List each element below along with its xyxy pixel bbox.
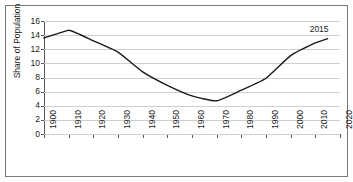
x-tick-mark-2010 — [315, 135, 316, 138]
y-tick-label-10: 10 — [26, 59, 40, 68]
y-tick-label-14: 14 — [26, 31, 40, 40]
x-tick-mark-1930 — [118, 135, 119, 138]
x-tick-mark-1960 — [192, 135, 193, 138]
x-tick-mark-1990 — [266, 135, 267, 138]
y-tick-mark-16 — [41, 21, 44, 22]
annotation-2015: 2015 — [310, 24, 329, 34]
y-tick-label-8: 8 — [26, 73, 40, 82]
cropped-title-text — [6, 0, 347, 3]
x-tick-mark-1950 — [167, 135, 168, 138]
y-tick-mark-2 — [41, 120, 44, 121]
x-tick-label-2000: 2000 — [295, 110, 305, 140]
x-tick-mark-2000 — [291, 135, 292, 138]
x-tick-label-1980: 1980 — [245, 110, 255, 140]
x-tick-label-1920: 1920 — [97, 110, 107, 140]
y-tick-label-16: 16 — [26, 17, 40, 26]
y-tick-label-12: 12 — [26, 45, 40, 54]
y-tick-label-4: 4 — [26, 101, 40, 110]
y-tick-label-0: 0 — [26, 130, 40, 139]
x-tick-label-1930: 1930 — [122, 110, 132, 140]
x-tick-mark-1940 — [143, 135, 144, 138]
y-axis-title: Share of Population — [12, 0, 22, 96]
x-tick-mark-1920 — [93, 135, 94, 138]
x-tick-mark-1970 — [217, 135, 218, 138]
x-tick-mark-2020 — [340, 135, 341, 138]
x-tick-label-1950: 1950 — [171, 110, 181, 140]
x-tick-label-1940: 1940 — [147, 110, 157, 140]
x-tick-mark-1980 — [241, 135, 242, 138]
x-tick-label-2010: 2010 — [319, 110, 329, 140]
series-line-share-of-population — [44, 30, 328, 101]
y-tick-label-6: 6 — [26, 87, 40, 96]
x-tick-label-1910: 1910 — [73, 110, 83, 140]
y-tick-mark-4 — [41, 106, 44, 107]
y-tick-mark-10 — [41, 63, 44, 64]
x-tick-label-1960: 1960 — [196, 110, 206, 140]
x-tick-mark-1910 — [69, 135, 70, 138]
y-tick-mark-12 — [41, 49, 44, 50]
chart-figure: Share of Population 1614121086420 190019… — [0, 0, 353, 182]
y-tick-mark-8 — [41, 78, 44, 79]
x-tick-mark-1900 — [44, 135, 45, 138]
y-tick-mark-6 — [41, 92, 44, 93]
y-tick-label-2: 2 — [26, 115, 40, 124]
x-tick-label-1990: 1990 — [270, 110, 280, 140]
x-tick-label-1970: 1970 — [221, 110, 231, 140]
x-tick-label-2020: 2020 — [344, 110, 353, 140]
y-tick-mark-14 — [41, 35, 44, 36]
y-axis-tick-labels: 1614121086420 — [24, 21, 40, 134]
x-tick-label-1900: 1900 — [48, 110, 58, 140]
